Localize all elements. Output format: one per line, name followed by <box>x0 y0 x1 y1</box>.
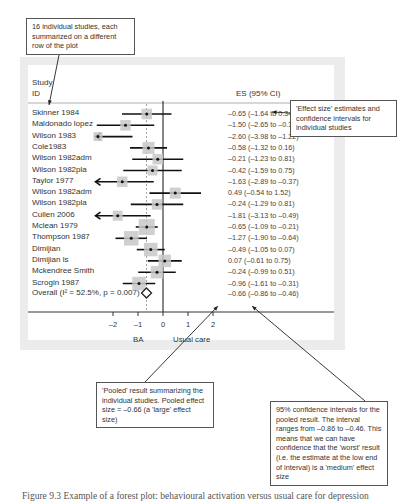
figure-caption: Figure 9.3 Example of a forest plot: beh… <box>22 491 369 501</box>
callout-effect-size: 'Effect size' estimates and confidence i… <box>290 100 397 137</box>
callout-pooled-result: 'Pooled' result summarizing the individu… <box>96 382 214 428</box>
callout-confidence-interval: 95% confidence intervals for the pooled … <box>270 401 388 486</box>
callout-individual-studies: 16 individual studies, each summarized o… <box>26 18 135 55</box>
